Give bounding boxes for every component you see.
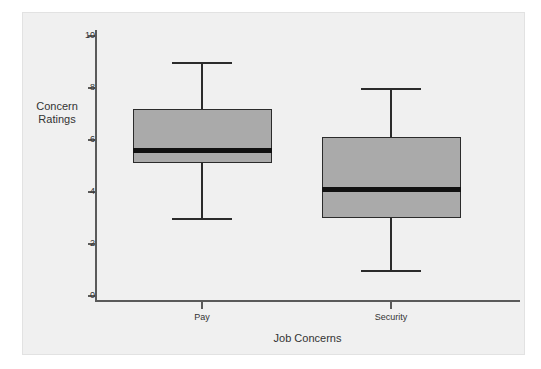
y-tick-label: 10 xyxy=(69,31,95,40)
y-axis-title: Concern Ratings xyxy=(26,100,88,126)
y-tick-label-wrap: 10 xyxy=(52,31,95,41)
upper-whisker-stem xyxy=(201,62,203,109)
x-tick-mark xyxy=(201,302,203,309)
y-tick-label: 4 xyxy=(69,187,95,196)
x-axis-line xyxy=(95,300,520,302)
median-line xyxy=(133,148,272,153)
upper-whisker-stem xyxy=(390,88,392,137)
lower-whisker-cap xyxy=(361,270,421,272)
y-tick-label: 0 xyxy=(69,291,95,300)
box-iqr-rect xyxy=(322,137,461,218)
lower-whisker-cap xyxy=(172,218,232,220)
y-tick-label-wrap: 8 xyxy=(52,83,95,93)
y-axis-line xyxy=(95,30,97,302)
y-tick-label: 2 xyxy=(69,239,95,248)
y-axis-title-line-2: Ratings xyxy=(26,113,88,126)
median-line xyxy=(322,187,461,192)
boxplot-chart: Concern Ratings 0246810 PaySecurity Job … xyxy=(0,0,541,369)
x-tick-label-pay: Pay xyxy=(142,312,262,322)
upper-whisker-cap xyxy=(172,62,232,64)
y-tick-label: 6 xyxy=(69,135,95,144)
x-tick-label-security: Security xyxy=(331,312,451,322)
upper-whisker-cap xyxy=(361,88,421,90)
x-axis-title: Job Concerns xyxy=(95,332,520,344)
x-tick-mark xyxy=(390,302,392,309)
box-iqr-rect xyxy=(133,109,272,164)
y-tick-label-wrap: 2 xyxy=(52,239,95,249)
y-tick-label-wrap: 4 xyxy=(52,187,95,197)
y-tick-label-wrap: 0 xyxy=(52,291,95,301)
y-tick-label: 8 xyxy=(69,83,95,92)
lower-whisker-stem xyxy=(390,218,392,270)
y-axis-title-line-1: Concern xyxy=(26,100,88,113)
lower-whisker-stem xyxy=(201,163,203,218)
y-tick-label-wrap: 6 xyxy=(52,135,95,145)
